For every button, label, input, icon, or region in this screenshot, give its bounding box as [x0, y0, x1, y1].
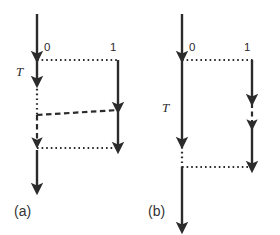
diagram-canvas: [0, 0, 280, 235]
panel-b-period-label: T: [162, 101, 169, 114]
panel-a-middle-dashed-link: [37, 110, 118, 115]
panel-b-caption: (b): [148, 204, 165, 218]
panel-a-lane-label-zero: 0: [44, 42, 50, 54]
panel-a-lane-label-one: 1: [110, 42, 116, 54]
panel-b-lane-label-zero: 0: [189, 42, 195, 54]
timing-diagram-figure: 0 1 T (a) 0 1 T (b): [0, 0, 280, 235]
panel-a-period-label: T: [16, 65, 23, 78]
panel-b-lane-label-one: 1: [244, 42, 250, 54]
panel-a-caption: (a): [14, 204, 31, 218]
